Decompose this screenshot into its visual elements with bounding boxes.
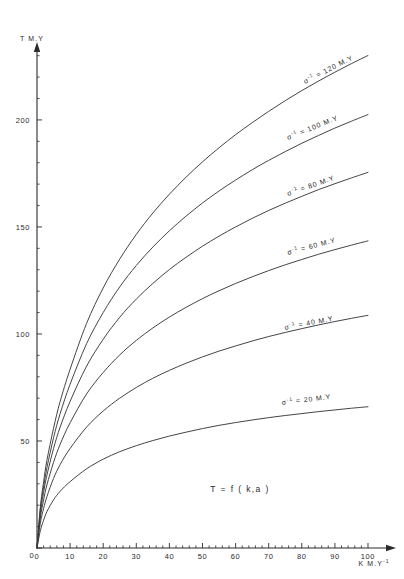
curve-label-text: σ-1 = 40 M.Y [283,313,334,331]
chart-annotation: T = f ( k,a ) [210,484,269,494]
x-axis-arrow-icon [386,545,396,551]
x-axis-tick-label: 10 [65,552,75,561]
curve-label-sigma-inv-100: σ-1 = 100 M.Y [285,112,339,141]
x-axis-tick-label: 70 [264,552,274,561]
curve-label-sigma-inv-60: σ-1 = 60 M.Y [286,234,336,256]
x-axis-tick-label: 30 [132,552,142,561]
curve-label-sigma-inv-20: σ-1 = 20 M.Y [281,391,331,406]
curve-sigma-inv-40 [37,315,368,548]
y-axis-tick-label: 200 [16,116,30,125]
curve-label-sigma-inv-40: σ-1 = 40 M.Y [283,313,334,331]
y-axis-tick-label: 0 [30,551,35,560]
x-axis-tick-label: 90 [330,552,340,561]
curve-sigma-inv-80 [37,172,368,548]
y-axis-arrow-icon [34,42,40,52]
curve-label-text: σ-1 = 120 M.Y [301,52,354,85]
x-axis-tick-label: 80 [297,552,307,561]
curve-label-text: σ-1 = 60 M.Y [286,234,336,256]
curve-label-sigma-inv-120: σ-1 = 120 M.Y [301,52,354,85]
svg-text:K M.Y-1: K M.Y-1 [358,558,389,567]
x-axis-title: K M.Y-1 [358,558,389,567]
x-axis-tick-label: 20 [98,552,108,561]
figure-container: 0102030405060708090100050100150200σ-1 = … [0,0,404,579]
curve-label-text: σ-1 = 100 M.Y [285,112,339,141]
y-axis-tick-label: 150 [16,223,30,232]
y-axis-tick-label: 100 [16,330,30,339]
curve-label-text: σ-1 = 20 M.Y [281,391,331,406]
chart-canvas: 0102030405060708090100050100150200σ-1 = … [0,0,404,579]
y-axis-title: T M.Y [20,35,44,42]
x-axis-tick-label: 40 [165,552,175,561]
x-axis-tick-label: 60 [231,552,241,561]
curve-sigma-inv-120 [37,55,368,548]
x-axis-tick-label: 0 [35,552,40,561]
curve-sigma-inv-20 [37,407,368,548]
x-axis-tick-label: 50 [198,552,208,561]
y-axis-tick-label: 50 [20,437,30,446]
